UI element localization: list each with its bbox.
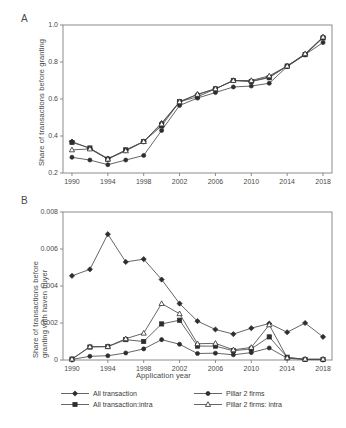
legend-symbol-circle-filled [193, 389, 223, 398]
legend-label: All transaction:intra [93, 400, 153, 409]
x-tick-label: 1998 [132, 365, 156, 372]
data-point-diamond-filled [105, 232, 110, 237]
panel-b-frame [63, 212, 332, 360]
data-point-circle-filled [88, 158, 92, 162]
figure-canvas: A B Share of transactions before grantin… [0, 0, 346, 428]
data-point-square-filled [160, 322, 164, 326]
data-point-circle-filled [267, 346, 271, 350]
chart-legend: All transaction All transaction:intra Pi… [0, 388, 346, 416]
data-point-square-filled [70, 140, 74, 144]
data-point-circle-filled [267, 81, 271, 85]
data-point-diamond-filled [213, 327, 218, 332]
x-tick-label: 2010 [239, 178, 263, 185]
data-point-diamond-filled [123, 259, 128, 264]
legend-item-all-transaction[interactable]: All transaction [60, 388, 137, 399]
x-tick-label: 1990 [60, 365, 84, 372]
x-tick-label: 2006 [203, 365, 227, 372]
data-point-circle-filled [160, 128, 164, 132]
legend-symbol-triangle-open [193, 400, 223, 409]
y-tick-label: 0.2 [48, 169, 58, 176]
legend-item-pillar-2-firms[interactable]: Pillar 2 firms [193, 388, 265, 399]
data-point-circle-filled [88, 354, 92, 358]
series-line [72, 43, 323, 165]
data-point-triangle-open [141, 330, 146, 335]
x-tick-label: 2002 [168, 178, 192, 185]
data-point-diamond-filled [72, 391, 77, 396]
data-point-circle-filled [249, 84, 253, 88]
y-tick-label: 0.002 [40, 319, 58, 326]
data-point-circle-filled [178, 342, 182, 346]
x-tick-label: 1998 [132, 178, 156, 185]
x-tick-label: 1994 [96, 178, 120, 185]
x-tick-label: 1990 [60, 178, 84, 185]
data-point-diamond-filled [285, 330, 290, 335]
data-point-circle-filled [142, 153, 146, 157]
data-point-circle-filled [124, 158, 128, 162]
x-tick-label: 1994 [96, 365, 120, 372]
legend-symbol-square-filled [60, 400, 90, 409]
x-tick-label: 2002 [168, 365, 192, 372]
x-tick-label: 2018 [311, 365, 335, 372]
data-point-triangle-open [213, 341, 218, 346]
data-point-square-filled [267, 335, 271, 339]
y-tick-label: 1.0 [48, 21, 58, 28]
legend-label: Pillar 2 firms: intra [226, 400, 282, 409]
data-point-diamond-filled [249, 326, 254, 331]
y-tick-label: 0.004 [40, 282, 58, 289]
y-tick-label: 0.006 [40, 245, 58, 252]
data-point-circle-filled [213, 351, 217, 355]
data-point-square-filled [73, 402, 77, 406]
x-tick-label: 2006 [203, 178, 227, 185]
y-tick-label: 0.8 [48, 58, 58, 65]
data-point-triangle-open [177, 311, 182, 316]
data-point-diamond-filled [231, 332, 236, 337]
y-tick-label: 0.4 [48, 132, 58, 139]
legend-item-all-transaction-intra[interactable]: All transaction:intra [60, 399, 153, 410]
data-point-circle-filled [124, 351, 128, 355]
data-point-triangle-open [159, 301, 164, 306]
y-tick-label: 0 [54, 356, 58, 363]
data-point-circle-filled [231, 353, 235, 357]
data-point-circle-filled [142, 347, 146, 351]
data-point-circle-filled [195, 351, 199, 355]
legend-item-pillar-2-firms-intra[interactable]: Pillar 2 firms: intra [193, 399, 282, 410]
legend-label: Pillar 2 firms [226, 389, 265, 398]
data-point-diamond-filled [87, 267, 92, 272]
data-point-circle-filled [106, 163, 110, 167]
x-tick-label: 2010 [239, 365, 263, 372]
y-tick-label: 0.008 [40, 208, 58, 215]
x-tick-label: 2014 [275, 178, 299, 185]
data-point-square-filled [142, 339, 146, 343]
data-point-circle-filled [70, 155, 74, 159]
data-point-circle-filled [321, 41, 325, 45]
x-tick-label: 2014 [275, 365, 299, 372]
data-point-circle-filled [160, 338, 164, 342]
data-point-circle-filled [206, 391, 210, 395]
legend-symbol-diamond-filled [60, 389, 90, 398]
data-point-diamond-filled [69, 273, 74, 278]
data-point-square-filled [177, 318, 181, 322]
data-point-circle-filled [106, 354, 110, 358]
data-point-circle-filled [231, 85, 235, 89]
x-tick-label: 2018 [311, 178, 335, 185]
data-point-circle-filled [249, 351, 253, 355]
y-tick-label: 0.6 [48, 95, 58, 102]
legend-label: All transaction [93, 389, 137, 398]
